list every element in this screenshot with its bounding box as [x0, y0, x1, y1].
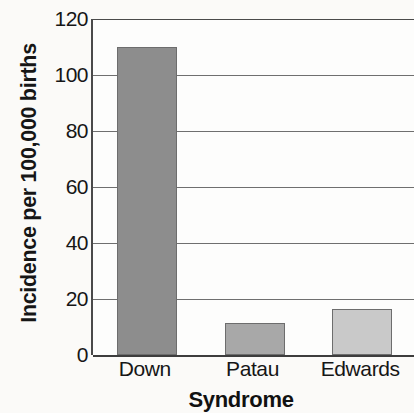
bar-edwards: [332, 309, 392, 355]
y-axis-tick-label: 80: [46, 119, 88, 143]
x-axis-tick-label: Down: [91, 357, 199, 381]
plot-area: [91, 19, 414, 355]
bars-layer: [93, 19, 414, 355]
x-axis-tick-labels: DownPatauEdwards: [91, 357, 414, 387]
y-axis-tick-label: 0: [46, 343, 88, 367]
y-axis-tick-label: 60: [46, 175, 88, 199]
y-axis-tick-labels: 020406080100120: [46, 0, 88, 413]
y-axis-tick-label: 100: [46, 63, 88, 87]
x-axis-title: Syndrome: [91, 387, 391, 413]
y-axis-tick-label: 120: [46, 7, 88, 31]
bar-down: [117, 47, 177, 355]
bar-chart-figure: Incidence per 100,000 births 02040608010…: [0, 0, 414, 413]
y-axis-tick-label: 40: [46, 231, 88, 255]
y-axis-tick-label: 20: [46, 287, 88, 311]
y-axis-title: Incidence per 100,000 births: [8, 3, 50, 363]
bar-patau: [225, 323, 285, 355]
x-axis-tick-label: Edwards: [306, 357, 414, 381]
x-axis-tick-label: Patau: [199, 357, 307, 381]
